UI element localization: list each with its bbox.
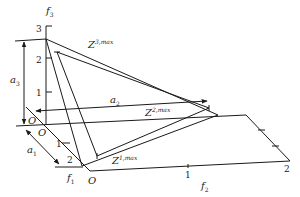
outer-triangle [46, 39, 218, 166]
a3-arrow: a3 [10, 42, 24, 124]
origin-label-bottom: O [88, 175, 96, 186]
a3-label: a3 [10, 74, 20, 87]
z3-max-label: Z3,max [87, 38, 114, 50]
origin-label-center: O [38, 127, 46, 138]
f1-tick-2: 2 [67, 155, 73, 165]
a2-arrow: a2 [36, 94, 207, 111]
f3-tick-3: 3 [36, 24, 42, 34]
a3-top-line [15, 39, 46, 41]
f3-tick-1: 1 [36, 88, 42, 98]
f3-axis-label: f3 [45, 5, 54, 18]
base-plane-right-edge [246, 115, 290, 161]
a1-label: a1 [27, 144, 37, 157]
f2-tick-1: 1 [185, 170, 191, 180]
base-plane-back-edge [16, 115, 246, 126]
f3-axis: 3 2 1 f3 [36, 5, 54, 124]
f1-axis-label: f1 [66, 172, 75, 185]
f1-tick-1: 1 [56, 139, 62, 149]
f2-tick-2: 2 [284, 164, 290, 174]
a2-label: a2 [110, 94, 120, 107]
z2-max-label: Z2,max [144, 106, 171, 118]
z1-max-label: Z1,max [111, 154, 138, 166]
origin-label-left: O [28, 115, 36, 126]
f2-axis-label: f2 [200, 180, 209, 193]
pareto-front-diagram: 3 2 1 f3 a3 1 2 f2 1 2 f1 O O O a1 a2 [0, 0, 300, 197]
f3-tick-2: 2 [36, 55, 42, 65]
